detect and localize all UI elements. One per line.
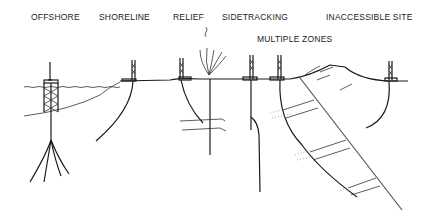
relief-rig-icon	[179, 58, 203, 123]
sidetracking-rig-icon	[243, 55, 260, 192]
hill-stratum	[340, 84, 352, 90]
shoreline-rig-icon	[96, 60, 136, 141]
sea-surface	[24, 87, 120, 88]
productive-zones	[270, 100, 380, 195]
fault-line	[300, 78, 402, 210]
multiple-zones-rig-icon	[270, 55, 357, 197]
directional-drilling-diagram: OFFSHORE SHORELINE RELIEF SIDETRACKING I…	[0, 0, 431, 224]
offshore-platform-rig-icon	[30, 62, 69, 182]
diagram-artwork	[0, 0, 431, 224]
blowout-well-icon	[180, 27, 226, 155]
hill-stratum	[317, 75, 330, 80]
ground-surface	[120, 65, 408, 81]
inaccessible-site-rig-icon	[366, 61, 397, 128]
